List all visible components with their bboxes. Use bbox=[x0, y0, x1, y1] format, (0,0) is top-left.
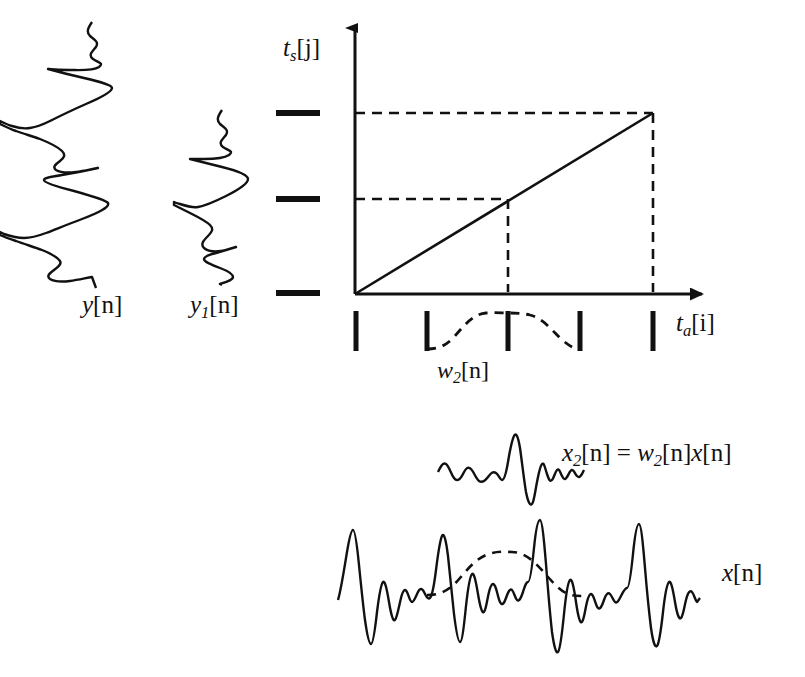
signal-label-y1-index: [n] bbox=[209, 291, 238, 318]
signal-waveform-x bbox=[338, 520, 700, 652]
y-axis-label: ts[j] bbox=[283, 35, 320, 64]
signal-waveform-y bbox=[0, 22, 112, 288]
signal-label-y-base: y bbox=[82, 291, 93, 318]
signal-waveform-y1 bbox=[174, 110, 248, 285]
signal-label-y1-base: y bbox=[190, 291, 201, 318]
y-axis-ticks bbox=[276, 113, 320, 293]
signal-label-x-index: [n] bbox=[733, 559, 762, 586]
equation-rhs2-index: [n] bbox=[702, 439, 731, 466]
window-curve-w2 bbox=[427, 313, 580, 349]
x-axis-label-base: t bbox=[676, 309, 683, 336]
x-axis-ticks bbox=[356, 311, 653, 351]
signal-label-y: y[n] bbox=[82, 292, 122, 317]
figure-canvas: ts[j] ta[i] w2[n] y[n] y1[n] x2[n] = w2[… bbox=[0, 0, 805, 677]
y-axis-label-base: t bbox=[283, 34, 290, 61]
x-axis-label-index: [i] bbox=[691, 309, 715, 336]
signal-label-y1: y1[n] bbox=[190, 292, 239, 321]
window-label-w2: w2[n] bbox=[437, 358, 489, 386]
equation-operator: = bbox=[611, 439, 638, 466]
x-axis-label-sub: a bbox=[683, 321, 691, 340]
x-axis-label: ta[i] bbox=[676, 310, 715, 339]
mapping-line bbox=[355, 113, 653, 294]
equation-rhs1-index: [n] bbox=[662, 439, 691, 466]
equation-lhs-index: [n] bbox=[581, 439, 610, 466]
signal-label-x-base: x bbox=[722, 559, 733, 586]
axis-group bbox=[355, 28, 702, 294]
window-label-sub: 2 bbox=[453, 369, 461, 386]
equation-lhs-base: x bbox=[562, 439, 573, 466]
y-axis-label-index: [j] bbox=[296, 34, 320, 61]
window-label-base: w bbox=[437, 357, 453, 383]
signal-equation-x2: x2[n] = w2[n]x[n] bbox=[562, 440, 731, 469]
signal-label-y-index: [n] bbox=[93, 291, 122, 318]
equation-rhs2-base: x bbox=[691, 439, 702, 466]
window-label-index: [n] bbox=[461, 357, 489, 383]
equation-rhs1-base: w bbox=[637, 439, 654, 466]
signal-label-x: x[n] bbox=[722, 560, 762, 585]
equation-rhs1-sub: 2 bbox=[654, 451, 662, 470]
